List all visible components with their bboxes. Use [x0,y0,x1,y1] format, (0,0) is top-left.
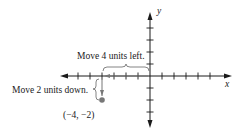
left-arrowhead-icon [104,74,110,78]
plotted-point [99,97,105,103]
y-axis-label: y [157,7,161,17]
vertical-move-arrow [100,79,104,96]
y-axis-down-arrow-icon [148,120,153,128]
vertical-brace [93,79,99,100]
point-coordinate-label: (−4, −2) [63,111,94,121]
coordinate-plane: y x Move 4 units left. Move 2 units down… [0,0,241,139]
vertical-move-label: Move 2 units down. [12,86,88,96]
y-axis-up-arrow-icon [148,12,153,20]
down-arrowhead-icon [100,90,104,96]
y-axis [147,12,154,128]
horizontal-brace [103,64,149,71]
x-axis-right-arrow-icon [224,74,232,79]
horizontal-move-label: Move 4 units left. [77,52,145,62]
x-axis-left-arrow-icon [60,74,68,79]
x-axis-label: x [225,80,229,90]
